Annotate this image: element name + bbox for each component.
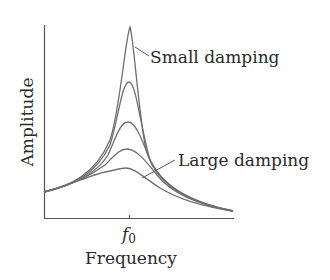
large-damping-label: Large damping xyxy=(178,150,309,170)
resonance-chart: Small damping Large damping Amplitude Fr… xyxy=(0,0,330,280)
y-axis-label: Amplitude xyxy=(17,78,37,168)
x-axis-label: Frequency xyxy=(85,248,177,268)
small-damping-label: Small damping xyxy=(150,47,280,67)
small-damping-leader xyxy=(135,47,149,56)
x-tick-label: f0 xyxy=(120,224,136,246)
